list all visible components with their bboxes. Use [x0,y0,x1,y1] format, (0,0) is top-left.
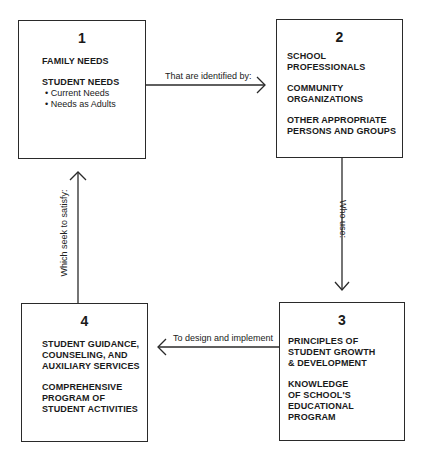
node-1-group-student-needs: STUDENT NEEDS [42,77,119,88]
node-4-group-activities: COMPREHENSIVE PROGRAM OF STUDENT ACTIVIT… [42,382,140,415]
node-2-number: 2 [277,29,402,45]
edge-label-4-to-1: Which seek to satisfy: [59,189,69,276]
node-1-item-needs-as-adults: • Needs as Adults [42,99,119,110]
node-3-number: 3 [280,312,404,328]
node-1-item-current-needs: • Current Needs [42,88,119,99]
node-3-group-knowledge: KNOWLEDGE OF SCHOOL'S EDUCATIONAL PROGRA… [288,379,375,423]
node-4-box: 4 STUDENT GUIDANCE, COUNSELING, AND AUXI… [21,303,148,442]
node-1-content: FAMILY NEEDS STUDENT NEEDS • Current Nee… [42,56,119,110]
node-4-content: STUDENT GUIDANCE, COUNSELING, AND AUXILI… [42,339,140,425]
node-1-number: 1 [19,30,145,46]
node-2-group-other-persons: OTHER APPROPRIATE PERSONS AND GROUPS [287,115,396,137]
node-3-box: 3 PRINCIPLES OF STUDENT GROWTH & DEVELOP… [279,302,405,441]
node-2-group-school-professionals: SCHOOL PROFESSIONALS [287,51,396,73]
edge-label-3-to-4: To design and implement [173,333,273,343]
node-3-content: PRINCIPLES OF STUDENT GROWTH & DEVELOPME… [288,336,375,433]
node-1-group-family-needs: FAMILY NEEDS [42,56,119,67]
node-2-group-community-organizations: COMMUNITY ORGANIZATIONS [287,83,396,105]
node-2-content: SCHOOL PROFESSIONALS COMMUNITY ORGANIZAT… [287,51,396,147]
edge-label-2-to-3: Who use: [338,200,348,238]
node-2-box: 2 SCHOOL PROFESSIONALS COMMUNITY ORGANIZ… [276,19,403,158]
node-3-group-principles: PRINCIPLES OF STUDENT GROWTH & DEVELOPME… [288,336,375,369]
node-4-number: 4 [22,313,147,329]
edge-label-1-to-2: That are identified by: [165,71,252,81]
node-4-group-guidance: STUDENT GUIDANCE, COUNSELING, AND AUXILI… [42,339,140,372]
node-1-box: 1 FAMILY NEEDS STUDENT NEEDS • Current N… [18,20,146,159]
